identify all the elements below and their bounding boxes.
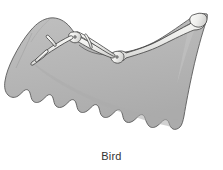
joint-marker-wrist bbox=[74, 36, 77, 39]
joint-marker-elbow bbox=[116, 56, 119, 59]
wing-illustration bbox=[0, 0, 223, 143]
caption-row: Bird bbox=[0, 143, 223, 170]
figure-caption: Bird bbox=[101, 143, 121, 163]
wing-illustration-svg bbox=[0, 0, 223, 143]
shoulder-joint bbox=[190, 13, 207, 27]
bird-wing-figure: Bird bbox=[0, 0, 223, 170]
